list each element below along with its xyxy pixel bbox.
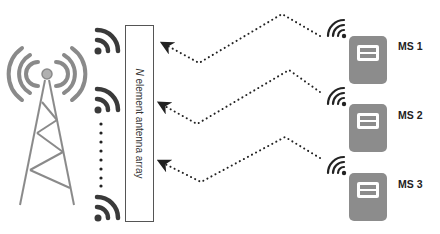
wifi-icon bbox=[95, 197, 119, 222]
vertical-ellipsis bbox=[99, 122, 102, 187]
mobile-device-icon-ms1 bbox=[349, 36, 387, 84]
antenna-array-label: N element antenna array bbox=[125, 25, 153, 221]
array-label-text: element antenna array bbox=[134, 75, 145, 178]
signal-path-ms3 bbox=[163, 137, 320, 182]
signal-paths bbox=[163, 14, 320, 182]
ms1-signal-icon bbox=[328, 20, 346, 38]
wifi-icon bbox=[95, 89, 119, 114]
antenna-element-1 bbox=[95, 30, 119, 55]
mobile-device-icon-ms2 bbox=[349, 104, 387, 152]
ms3-signal-icon bbox=[328, 157, 346, 175]
signal-path-ms2 bbox=[163, 70, 320, 124]
array-label-n: N bbox=[134, 68, 145, 75]
cell-tower-icon bbox=[9, 48, 86, 205]
wifi-icon bbox=[95, 30, 119, 55]
ms2-label: MS 2 bbox=[398, 109, 423, 121]
ms1-label: MS 1 bbox=[398, 40, 423, 52]
antenna-element-n bbox=[95, 197, 119, 222]
signal-path-ms1 bbox=[166, 14, 320, 63]
ms2-signal-icon bbox=[328, 88, 346, 106]
ms3-label: MS 3 bbox=[398, 178, 423, 190]
diagram-canvas bbox=[0, 0, 440, 234]
antenna-element-2 bbox=[95, 89, 119, 114]
mobile-device-icon-ms3 bbox=[349, 173, 387, 221]
